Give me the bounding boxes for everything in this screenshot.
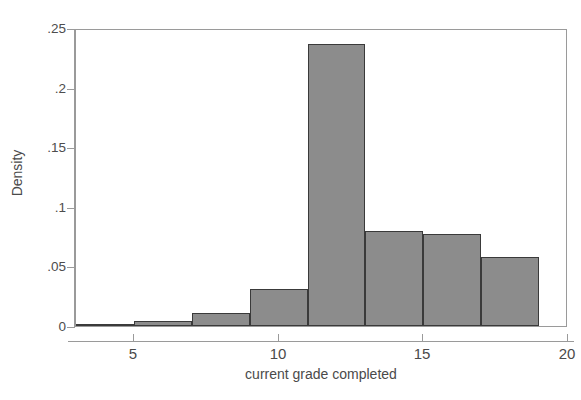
x-axis-tick — [278, 334, 279, 342]
y-axis-tick-label: .05 — [0, 260, 66, 274]
x-axis-tick — [133, 334, 134, 342]
histogram-bar — [76, 324, 134, 326]
histogram-bar — [308, 44, 366, 327]
x-axis-tick-label: 10 — [248, 345, 308, 363]
y-axis-tick — [67, 208, 75, 209]
histogram-figure: 0.05.1.15.2.25 5101520 current grade com… — [0, 0, 581, 400]
y-axis-tick — [67, 267, 75, 268]
histogram-bar — [250, 289, 308, 326]
x-axis-tick-label: 20 — [537, 345, 581, 363]
x-axis-tick-label: 5 — [103, 345, 163, 363]
plot-frame — [75, 29, 567, 327]
y-axis-tick — [67, 29, 75, 30]
y-axis-tick — [67, 327, 75, 328]
y-axis-title: Density — [9, 123, 25, 223]
x-axis-title: current grade completed — [75, 366, 567, 382]
x-axis-tick — [567, 334, 568, 342]
x-axis-tick — [422, 334, 423, 342]
y-axis-tick-label: 0 — [0, 320, 66, 334]
y-axis-tick-label: .2 — [0, 82, 66, 96]
histogram-bar — [134, 321, 192, 326]
histogram-bar — [423, 234, 481, 326]
y-axis-tick — [67, 89, 75, 90]
plot-area — [76, 30, 566, 326]
y-axis-tick — [67, 148, 75, 149]
histogram-bar — [481, 257, 539, 326]
histogram-bar — [365, 231, 423, 326]
y-axis-tick-label: .25 — [0, 22, 66, 36]
x-axis-line — [68, 341, 574, 342]
x-axis-tick-label: 15 — [392, 345, 452, 363]
histogram-bar — [192, 313, 250, 326]
